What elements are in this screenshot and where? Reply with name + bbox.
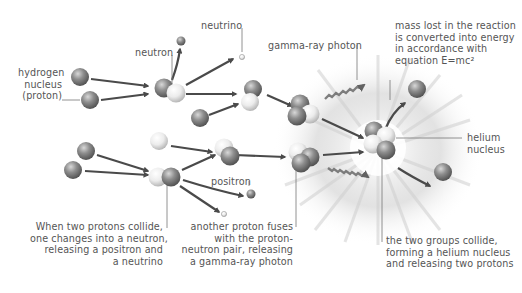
proton-particle	[292, 154, 311, 173]
neutrino-particle	[239, 54, 244, 59]
proton-particle	[71, 68, 89, 86]
proton-particle	[191, 109, 209, 127]
label-neutron: neutron	[135, 47, 173, 59]
proton-particle	[377, 141, 396, 160]
caption-step-1: When two protons collide, one changes in…	[30, 221, 163, 267]
proton-particle	[81, 91, 99, 109]
label-helium-nucleus: helium nucleus	[467, 132, 505, 155]
neutron-particle	[241, 93, 259, 111]
released-proton	[434, 163, 452, 181]
label-gamma-ray-photon: gamma-ray photon	[268, 40, 362, 52]
neutron-particle	[150, 132, 168, 150]
neutrino-particle	[221, 211, 226, 216]
proton-particle	[77, 142, 95, 160]
released-proton	[408, 80, 426, 98]
label-mass-energy: mass lost in the reaction is converted i…	[395, 20, 516, 66]
label-positron: positron	[211, 176, 251, 188]
proton-proton-chain-diagram: neutrino neutron hydrogen nucleus (proto…	[0, 0, 522, 293]
proton-particle	[162, 168, 181, 187]
positron-particle	[177, 37, 186, 46]
caption-step-2: another proton fuses with the proton- ne…	[181, 221, 293, 267]
proton-particle	[64, 161, 82, 179]
label-hydrogen-nucleus: hydrogen nucleus (proton)	[18, 67, 62, 102]
positron-particle	[247, 190, 256, 199]
label-neutrino: neutrino	[201, 20, 242, 32]
proton-particle	[221, 147, 240, 166]
neutron-particle	[167, 84, 186, 103]
caption-step-3: the two groups collide, forming a helium…	[386, 235, 514, 270]
proton-particle	[288, 107, 307, 126]
